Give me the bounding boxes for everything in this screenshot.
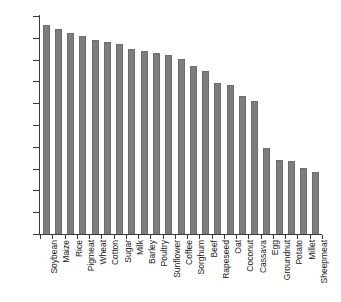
x-axis-tick [52,235,53,239]
bar [227,85,234,234]
x-axis-labels: SoybeanMaizeRicePigmeatWheatCottonSugarM… [0,240,282,302]
x-axis-tick-label: Cotton [111,240,120,265]
x-axis-tick-label: Cassava [259,240,268,273]
x-axis-tick-label: Maize [62,240,71,263]
x-axis-tick [89,235,90,239]
y-axis-tick-label-wrap: 40 [0,147,39,148]
y-axis-tick-label-wrap: 10 [0,212,39,213]
x-axis-tick-label: Millet [308,240,317,260]
x-axis-tick-label: Milk [136,240,145,255]
bar [276,160,283,234]
bar [43,25,50,234]
x-axis-tick-label: Sorghum [197,240,206,275]
x-axis-tick-label: Wheat [99,240,108,265]
x-axis-tick [212,235,213,239]
x-axis-tick-label: Rapeseed [222,240,231,279]
x-axis-tick [138,235,139,239]
bar [202,71,209,235]
bar [251,101,258,234]
bar [153,53,160,234]
x-axis-tick [236,235,237,239]
x-axis-tick [261,235,262,239]
x-axis-tick [77,235,78,239]
bar [104,42,111,234]
x-axis-tick-label: Sunflower [173,240,182,278]
y-axis-tick-label-wrap: 100 [0,16,39,17]
x-axis-tick [126,235,127,239]
x-axis-tick [224,235,225,239]
bar [165,55,172,234]
x-axis-tick-label: Coconut [246,240,255,272]
bar-chart: 0102030405060708090100 SoybeanMaizeRiceP… [0,0,341,302]
x-axis-tick [187,235,188,239]
x-axis-tick [150,235,151,239]
x-axis-tick [248,235,249,239]
x-axis-tick [297,235,298,239]
x-axis-tick-label: Sugar [124,240,133,263]
y-axis-tick-label-wrap: 0 [0,234,39,235]
x-axis-tick [175,235,176,239]
x-axis-tick [114,235,115,239]
bar [190,66,197,234]
bar [67,33,74,234]
x-axis-tick-label: Groundnut [283,240,292,280]
x-axis-tick-label: Pigmeat [87,240,96,271]
x-axis-tick [163,235,164,239]
x-axis-tick-label: Potato [295,240,304,265]
y-axis-tick-label-wrap: 60 [0,103,39,104]
x-axis-tick-label: Oat [234,240,243,254]
bar [55,29,62,234]
bar [92,40,99,234]
y-axis-tick-label-wrap: 50 [0,125,39,126]
bar [79,36,86,234]
x-axis-tick-label: Egg [271,240,280,255]
y-axis-tick-label-wrap: 30 [0,169,39,170]
x-axis-tick-label: Coffee [185,240,194,265]
bar [116,44,123,234]
bar-series [40,16,322,234]
x-axis-tick [65,235,66,239]
bar [300,168,307,234]
x-axis-tick [273,235,274,239]
bar [214,83,221,235]
bar [288,161,295,234]
x-axis-line [39,234,322,235]
bar [141,51,148,234]
x-axis-tick [322,235,323,239]
x-axis-tick [101,235,102,239]
y-axis-tick-label-wrap: 70 [0,81,39,82]
x-axis-tick-label: Soybean [50,240,59,274]
x-axis-tick [310,235,311,239]
bar [312,172,319,234]
bar [178,59,185,234]
y-axis-tick-label-wrap: 90 [0,38,39,39]
bar [263,148,270,234]
bar [239,96,246,234]
x-axis-tick-label: Rice [75,240,84,257]
y-axis-tick-label-wrap: 80 [0,60,39,61]
x-axis-tick [40,235,41,239]
x-axis-tick-label: Barley [148,240,157,264]
x-axis-tick-label: Poultry [160,240,169,266]
x-axis-tick [285,235,286,239]
x-axis-tick-label: Sheepmeat [320,240,329,283]
bar [128,49,135,234]
x-axis-tick-label: Beef [210,240,219,258]
x-axis-tick [199,235,200,239]
y-axis-tick-label-wrap: 20 [0,190,39,191]
